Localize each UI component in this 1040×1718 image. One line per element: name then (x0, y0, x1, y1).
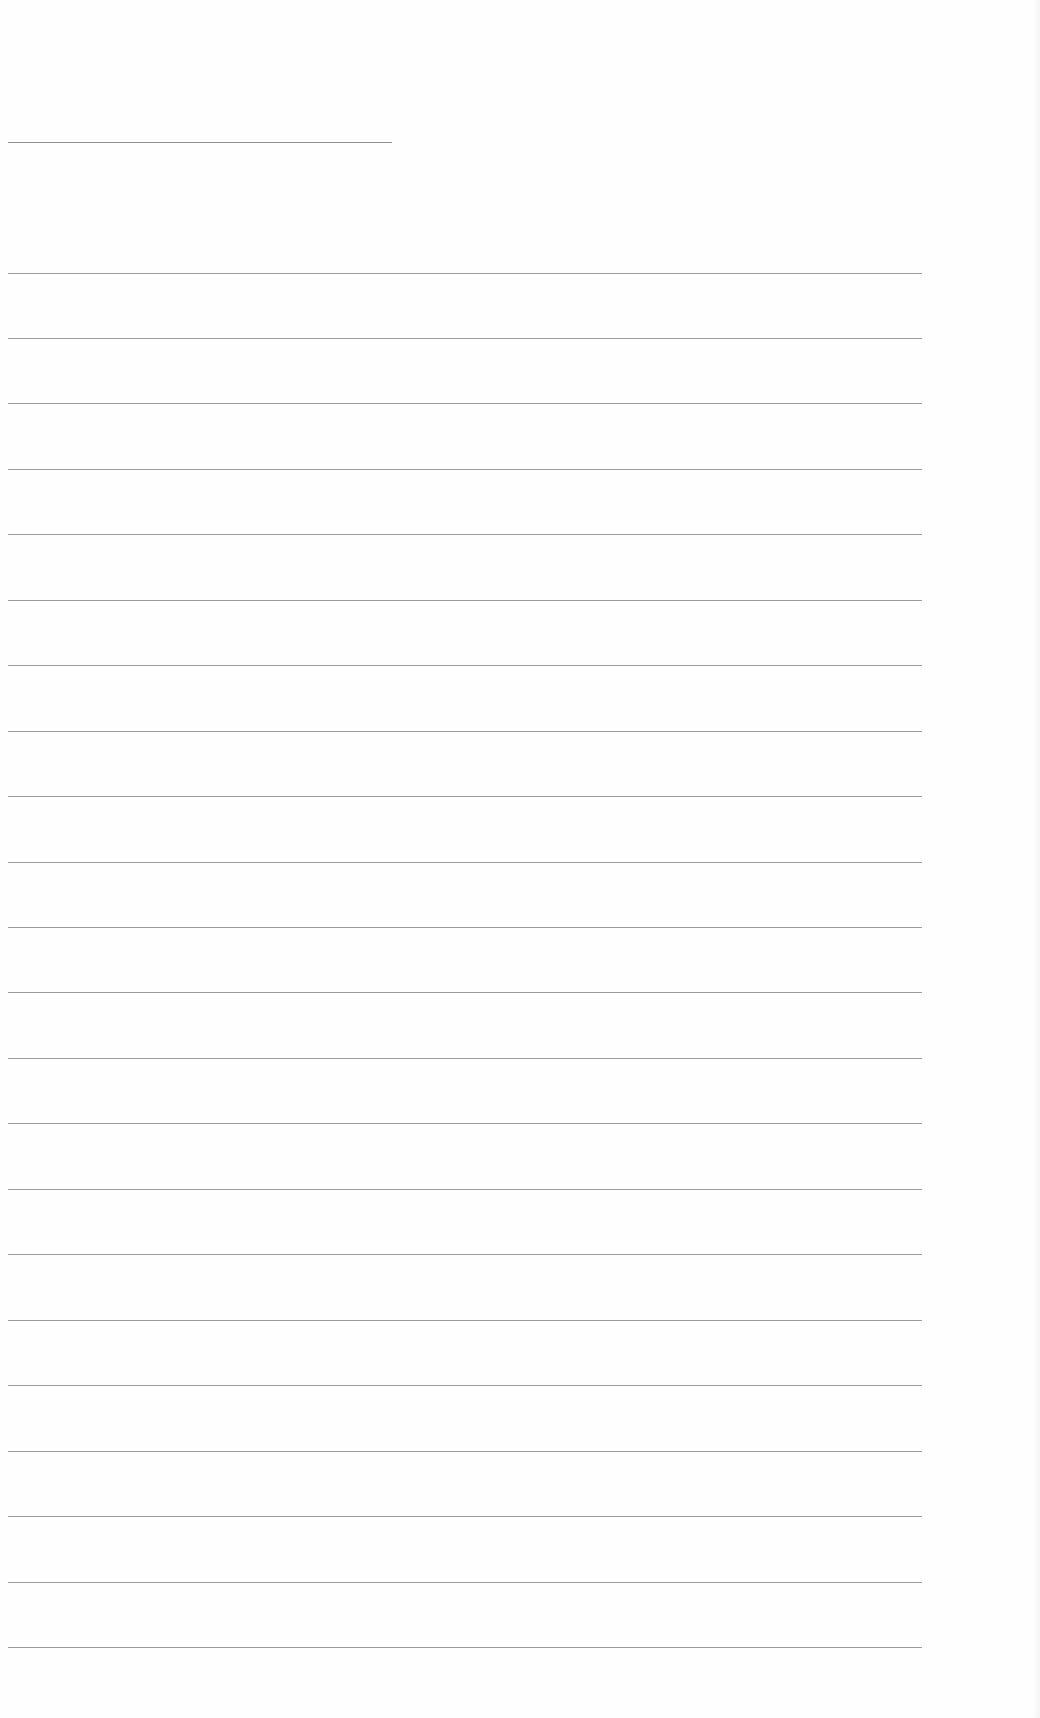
ruled-line (8, 992, 922, 993)
ruled-line (8, 273, 922, 274)
ruled-line (8, 1123, 922, 1124)
ruled-line (8, 1189, 922, 1190)
ruled-line (8, 1647, 922, 1648)
lined-paper-page (0, 0, 1040, 1718)
ruled-line (8, 796, 922, 797)
ruled-line (8, 403, 922, 404)
ruled-line (8, 731, 922, 732)
ruled-line (8, 1385, 922, 1386)
ruled-line (8, 862, 922, 863)
ruled-line (8, 927, 922, 928)
page-edge-shadow (1032, 0, 1040, 1718)
ruled-line (8, 469, 922, 470)
ruled-line (8, 1451, 922, 1452)
ruled-line (8, 1254, 922, 1255)
ruled-line (8, 665, 922, 666)
ruled-line (8, 338, 922, 339)
ruled-line (8, 534, 922, 535)
ruled-line (8, 1058, 922, 1059)
ruled-line (8, 600, 922, 601)
ruled-line (8, 1516, 922, 1517)
ruled-line (8, 1582, 922, 1583)
ruled-line (8, 1320, 922, 1321)
header-rule (8, 142, 392, 143)
